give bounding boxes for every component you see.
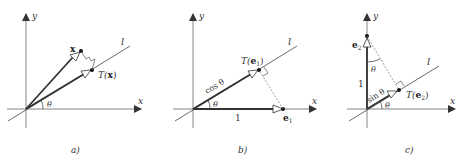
sin-theta-label: sin θ bbox=[365, 87, 386, 105]
vector-tx bbox=[26, 74, 84, 109]
angle-label: θ bbox=[47, 100, 52, 109]
vector-tx-label: T(x) bbox=[98, 70, 116, 80]
x-axis-label: x bbox=[312, 96, 317, 106]
vector-te1-label: T(e1) bbox=[241, 56, 264, 67]
vector-te1-arrowhead bbox=[248, 70, 258, 78]
vector-e2-label: e2 bbox=[352, 40, 362, 51]
right-angle-marker bbox=[263, 67, 268, 76]
perpendicular-marker bbox=[81, 51, 95, 70]
vector-tx-arrowhead bbox=[81, 70, 91, 78]
angle-label: θ bbox=[385, 101, 390, 110]
panel-c: x y l e2 T(e2) 1 sin θ θ θ c) bbox=[347, 11, 455, 155]
unit-length-label: 1 bbox=[358, 79, 364, 89]
angle-arc bbox=[41, 100, 43, 109]
projection-dash bbox=[367, 36, 399, 90]
vector-te2-label: T(e2) bbox=[406, 90, 429, 101]
angle-arc-top bbox=[367, 59, 380, 62]
caption-a: a) bbox=[71, 145, 80, 155]
vector-e2-arrowhead bbox=[363, 38, 371, 47]
y-axis-label: y bbox=[198, 11, 205, 21]
projection-dash bbox=[259, 70, 283, 109]
y-axis-label: y bbox=[31, 11, 38, 21]
unit-length-label: 1 bbox=[235, 113, 241, 123]
panel-b: x y l e1 T(e1) cos θ 1 θ b) bbox=[173, 11, 317, 155]
line-l-label: l bbox=[121, 36, 124, 47]
projection-diagram: x y l x T(x) θ a) x y l bbox=[0, 0, 462, 165]
angle-arc bbox=[208, 100, 210, 109]
panel-a: x y l x T(x) θ a) bbox=[7, 11, 143, 155]
vector-x-label: x bbox=[70, 44, 76, 54]
right-angle-marker bbox=[396, 81, 404, 86]
vector-e1-label: e1 bbox=[283, 113, 293, 124]
caption-b: b) bbox=[238, 145, 248, 155]
x-axis-label: x bbox=[450, 96, 455, 106]
angle-label: θ bbox=[213, 100, 218, 109]
caption-c: c) bbox=[405, 145, 414, 155]
cos-theta-label: cos θ bbox=[203, 77, 226, 96]
x-axis-label: x bbox=[138, 96, 143, 106]
line-l-label: l bbox=[427, 56, 430, 67]
angle-top-label: θ bbox=[371, 65, 376, 74]
angle-arc bbox=[380, 101, 382, 109]
line-l-label: l bbox=[288, 36, 291, 47]
y-axis-label: y bbox=[372, 11, 379, 21]
